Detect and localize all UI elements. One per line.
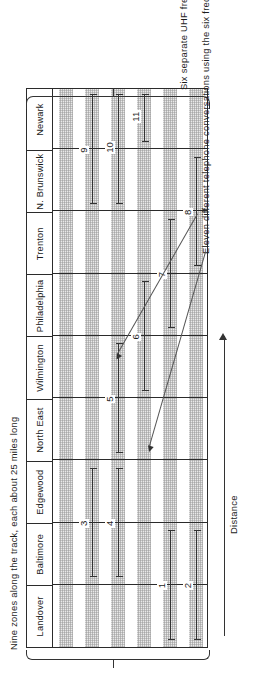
conversation-segment xyxy=(92,94,93,204)
distance-arrow-icon xyxy=(219,333,227,340)
conversation-segment xyxy=(196,157,197,267)
zone-label: Wilmington xyxy=(35,344,45,391)
zone-separator xyxy=(53,148,207,149)
zone-separator xyxy=(53,273,207,274)
zone-label: Philadelphia xyxy=(35,280,45,332)
uhf-brace-tip xyxy=(113,88,114,96)
zone-cell: North East xyxy=(27,399,52,461)
caption-uhf: Six separate UHF frequencies xyxy=(178,6,190,90)
distance-axis-label: Distance xyxy=(228,495,239,534)
conversation-segment xyxy=(170,530,171,640)
track-frequency-plot: LandoverBaltimoreEdgewoodNorth EastWilmi… xyxy=(26,88,208,648)
conversation-number: 5 xyxy=(105,395,115,403)
conversation-segment xyxy=(118,94,119,204)
conversation-number: 2 xyxy=(183,581,193,589)
zone-cell: Trenton xyxy=(27,212,52,274)
zone-cell: Philadelphia xyxy=(27,274,52,336)
caption-zones: Nine zones along the track, each about 2… xyxy=(8,417,19,650)
zone-label: Baltimore xyxy=(35,534,45,575)
zone-label: N. Brunswick xyxy=(35,154,45,210)
zone-label: Landover xyxy=(35,596,45,636)
conversation-number: 9 xyxy=(79,146,89,154)
conversation-number: 6 xyxy=(131,333,141,341)
zone-cell: N. Brunswick xyxy=(27,150,52,212)
zone-cell: Landover xyxy=(27,585,52,647)
conversation-number: 3 xyxy=(79,519,89,527)
conversation-segment xyxy=(92,468,93,578)
zone-cell: Wilmington xyxy=(27,336,52,398)
figure-canvas: Nine zones along the track, each about 2… xyxy=(0,0,261,684)
zone-label: North East xyxy=(35,407,45,452)
zone-separator xyxy=(53,522,207,523)
zone-header-row: LandoverBaltimoreEdgewoodNorth EastWilmi… xyxy=(27,89,53,647)
zone-cell: Baltimore xyxy=(27,523,52,585)
zone-cell: Edgewood xyxy=(27,461,52,523)
caption-conversations: Eleven different telephone conversations… xyxy=(200,84,212,254)
conversation-number: 10 xyxy=(105,141,115,155)
zone-label: Trenton xyxy=(35,227,45,260)
frequency-band xyxy=(59,89,74,647)
zones-bracket-tip xyxy=(113,659,114,668)
conversation-number: 4 xyxy=(105,519,115,527)
conversation-segment xyxy=(118,468,119,578)
plot-body: 1234567891011 xyxy=(53,89,207,647)
conversation-number: 11 xyxy=(131,110,141,123)
zone-separator xyxy=(53,459,207,460)
conversation-number: 1 xyxy=(157,581,167,589)
zones-bracket xyxy=(26,650,210,660)
zone-label: Edgewood xyxy=(35,470,45,515)
zone-separator xyxy=(53,397,207,398)
conversation-segment xyxy=(144,281,145,391)
conversation-segment xyxy=(170,219,171,329)
distance-axis-line xyxy=(224,336,225,636)
uhf-brace xyxy=(26,96,210,109)
conversation-segment xyxy=(196,530,197,640)
conversation-number: 8 xyxy=(183,208,193,216)
